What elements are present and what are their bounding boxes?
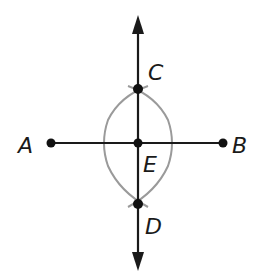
point-b — [219, 139, 228, 148]
construction-arc-left — [104, 86, 148, 207]
label-b: B — [232, 133, 247, 158]
label-a: A — [16, 133, 33, 158]
label-c: C — [148, 60, 164, 85]
label-e: E — [143, 152, 157, 177]
point-a — [47, 139, 56, 148]
point-d — [133, 199, 143, 209]
point-c — [133, 84, 143, 94]
perpendicular-bisector-diagram: C A B E D — [0, 0, 256, 278]
arrow-down-icon — [132, 252, 144, 271]
point-e — [134, 139, 143, 148]
construction-arc-right — [128, 86, 172, 207]
arrow-up-icon — [132, 15, 144, 34]
label-d: D — [145, 214, 162, 239]
